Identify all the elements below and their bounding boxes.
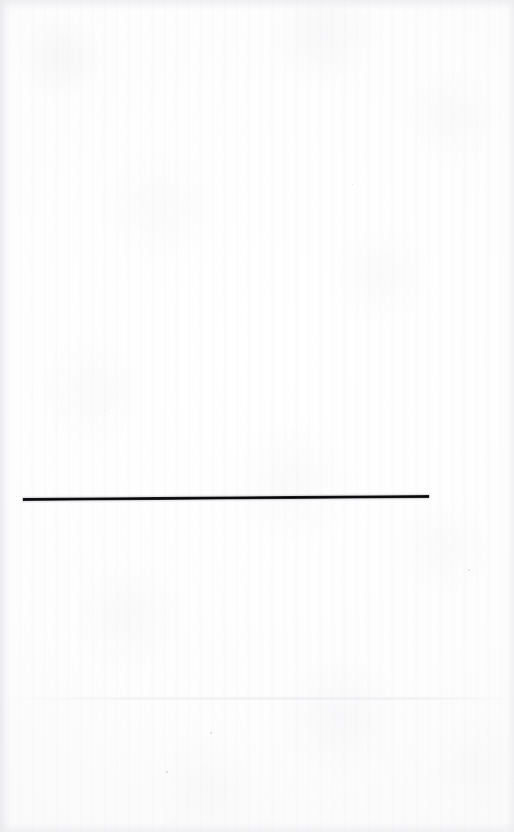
dust-speck	[468, 569, 470, 571]
dust-speck	[352, 184, 353, 185]
dust-speck	[166, 771, 168, 773]
horizontal-rule	[23, 495, 429, 501]
page-edge-shading	[0, 0, 514, 832]
dust-speck	[104, 410, 105, 411]
dust-speck	[210, 732, 212, 734]
paper-crease	[0, 697, 514, 700]
scanned-page	[0, 0, 514, 832]
